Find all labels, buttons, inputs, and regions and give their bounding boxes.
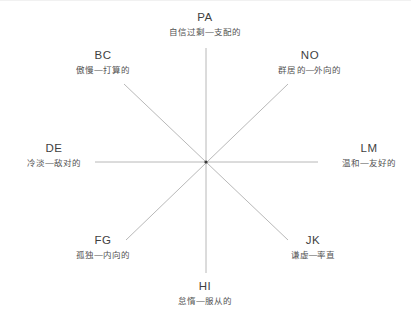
octant-description-hi: 怠惰—服从的 xyxy=(178,297,232,306)
octant-description-no: 群居的—外向的 xyxy=(278,66,341,75)
octant-label-jk: JK 谦虚—率直 xyxy=(291,235,336,259)
octant-description-jk: 谦虚—率直 xyxy=(291,251,336,260)
octant-code-jk: JK xyxy=(291,235,336,247)
octant-label-de: DE 冷淡—敌对的 xyxy=(27,143,81,167)
octant-label-no: NO 群居的—外向的 xyxy=(278,50,341,74)
octant-code-pa: PA xyxy=(169,12,241,24)
octant-label-lm: LM 温和—友好的 xyxy=(342,143,396,167)
octant-code-de: DE xyxy=(27,143,81,155)
octant-code-fg: FG xyxy=(76,235,130,247)
interpersonal-circumplex-diagram: PA 自信过剩—支配的 BC 傲慢—打算的 NO 群居的—外向的 DE 冷淡—敌… xyxy=(0,0,411,320)
octant-description-lm: 温和—友好的 xyxy=(342,159,396,168)
octant-description-bc: 傲慢—打算的 xyxy=(76,66,130,75)
octant-label-pa: PA 自信过剩—支配的 xyxy=(169,12,241,36)
octant-label-bc: BC 傲慢—打算的 xyxy=(76,50,130,74)
octant-label-hi: HI 怠惰—服从的 xyxy=(178,281,232,305)
octant-code-lm: LM xyxy=(342,143,396,155)
octant-code-no: NO xyxy=(278,50,341,62)
octant-code-bc: BC xyxy=(76,50,130,62)
octant-description-pa: 自信过剩—支配的 xyxy=(169,28,241,37)
octant-description-fg: 孤独—内向的 xyxy=(76,251,130,260)
origin-point xyxy=(204,160,207,163)
octant-description-de: 冷淡—敌对的 xyxy=(27,159,81,168)
octant-code-hi: HI xyxy=(178,281,232,293)
octant-label-fg: FG 孤独—内向的 xyxy=(76,235,130,259)
